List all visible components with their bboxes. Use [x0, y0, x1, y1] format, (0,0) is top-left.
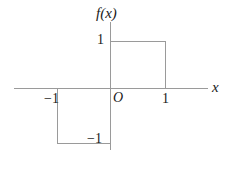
y-tick-label-neg-1: −1: [87, 132, 102, 146]
x-tick-label-1: 1: [162, 92, 169, 106]
origin-label: O: [113, 91, 123, 105]
upper-step-segment: [110, 41, 166, 42]
lower-step-segment: [57, 143, 111, 144]
y-tick-label-1: 1: [97, 33, 104, 47]
x-axis-label: x: [212, 80, 219, 95]
y-axis-label: f(x): [96, 6, 117, 21]
x-tick-label-neg-1: −1: [44, 92, 59, 106]
x-axis-line: [14, 88, 208, 89]
function-graph-figure: f(x) x O 1 −1 1 −1: [0, 0, 232, 170]
upper-step-right-drop: [165, 41, 166, 89]
